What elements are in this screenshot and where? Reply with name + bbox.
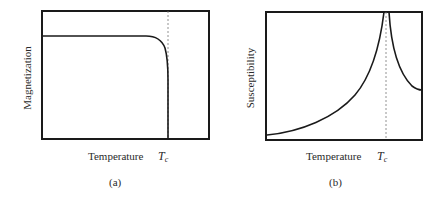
panel-a-xlabel: Temperature [88,150,143,162]
panel-b-ylabel: Susceptibility [244,43,256,113]
panel-a-plot [42,11,209,139]
panel-b-tc-subscript: c [384,155,388,164]
panel-b-tc-symbol: T [377,149,384,163]
panel-a-ylabel: Magnetization [21,43,33,113]
panel-a-magnetization-curve [43,36,168,139]
panel-b-plot [266,12,422,140]
panel-a-tc-subscript: c [165,155,169,164]
panel-b-susceptibility-above-tc [389,12,422,90]
panel-a-caption: (a) [109,176,121,188]
panel-a-frame [42,11,209,139]
figure-canvas [0,0,436,198]
panel-b-tc-label: Tc [377,149,387,164]
panel-b-caption: (b) [329,176,342,188]
panel-b-frame [266,12,422,140]
panel-b-xlabel: Temperature [306,150,361,162]
panel-a-tc-label: Tc [158,149,168,164]
panel-a-tc-symbol: T [158,149,165,163]
panel-b-susceptibility-below-tc [267,12,384,135]
